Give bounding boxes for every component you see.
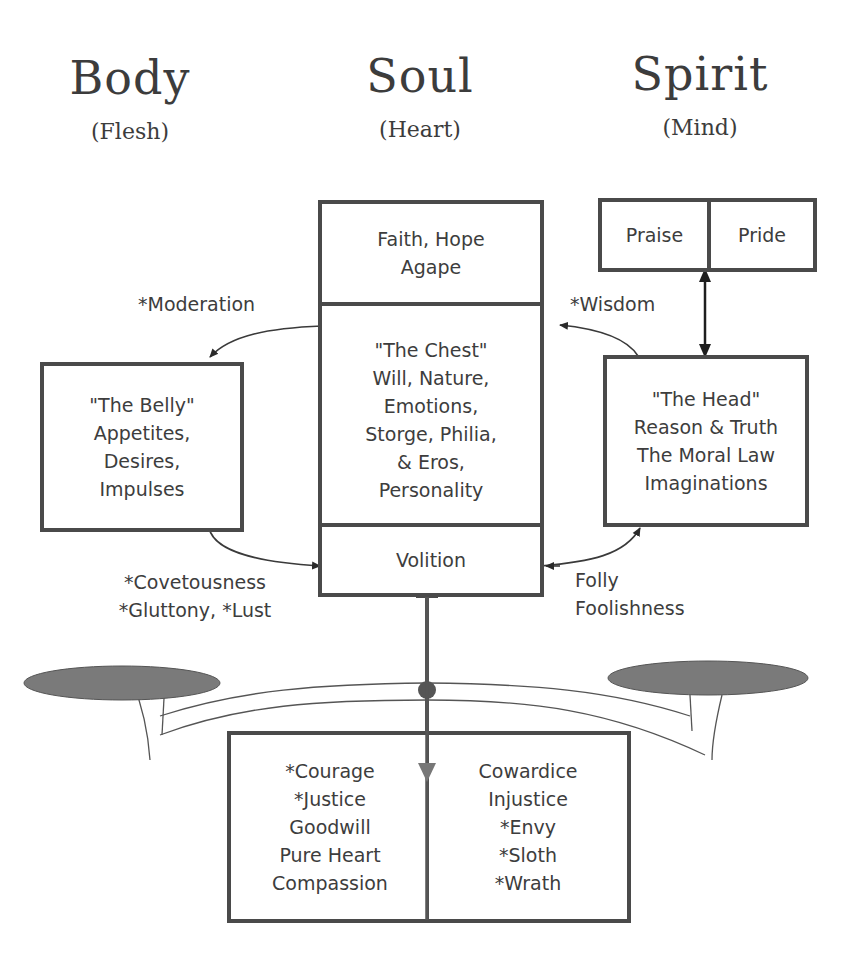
folly-line-1: Folly [575, 566, 685, 594]
scale-pan-right [608, 661, 808, 695]
head-line-2: Reason & Truth [634, 413, 778, 441]
chest-line-1: "The Chest" [374, 336, 487, 364]
folly-arrow [540, 528, 640, 566]
heading-spirit: Spirit (Mind) [610, 48, 790, 142]
vice-1: Cowardice [478, 757, 577, 785]
chest-box: "The Chest" Will, Nature, Emotions, Stor… [318, 302, 544, 538]
head-line-4: Imaginations [644, 469, 767, 497]
volition-label: Volition [396, 546, 466, 574]
chest-line-4: Storge, Philia, [365, 420, 496, 448]
heading-body-subtitle: (Flesh) [40, 118, 220, 146]
scale-beam-upper [160, 683, 690, 716]
pride-label: Pride [738, 221, 786, 249]
head-line-3: The Moral Law [637, 441, 775, 469]
volition-box: Volition [318, 523, 544, 597]
vice-4: *Sloth [499, 841, 557, 869]
covetousness-label: *Covetousness *Gluttony, *Lust [106, 568, 284, 624]
virtue-5: Compassion [272, 869, 388, 897]
belly-line-1: "The Belly" [89, 391, 194, 419]
vice-5: *Wrath [495, 869, 561, 897]
faith-hope-agape-box: Faith, Hope Agape [318, 200, 544, 306]
moderation-label: *Moderation [138, 290, 255, 318]
vice-2: Injustice [488, 785, 568, 813]
belly-box: "The Belly" Appetites, Desires, Impulses [40, 362, 244, 532]
wisdom-label: *Wisdom [570, 290, 655, 318]
folly-label: Folly Foolishness [575, 566, 685, 622]
virtue-2: *Justice [294, 785, 366, 813]
chest-line-3: Emotions, [384, 392, 478, 420]
faith-line-2: Agape [401, 253, 461, 281]
chest-line-5: & Eros, [397, 448, 465, 476]
moderation-arrow [210, 326, 322, 357]
virtue-4: Pure Heart [279, 841, 380, 869]
virtue-1: *Courage [285, 757, 375, 785]
belly-line-3: Desires, [104, 447, 181, 475]
praise-label: Praise [626, 221, 683, 249]
heading-soul: Soul (Heart) [330, 50, 510, 144]
heading-body: Body (Flesh) [40, 52, 220, 146]
covetousness-line-2: *Gluttony, *Lust [106, 596, 284, 624]
heading-spirit-title: Spirit [610, 48, 790, 100]
faith-line-1: Faith, Hope [377, 225, 484, 253]
fulcrum-pivot [418, 681, 436, 699]
wisdom-arrow [560, 325, 638, 356]
head-line-1: "The Head" [652, 385, 761, 413]
chest-line-6: Personality [379, 476, 484, 504]
head-box: "The Head" Reason & Truth The Moral Law … [603, 355, 809, 527]
heading-soul-title: Soul [330, 50, 510, 102]
folly-line-2: Foolishness [575, 594, 685, 622]
heading-soul-subtitle: (Heart) [330, 116, 510, 144]
belly-line-2: Appetites, [94, 419, 191, 447]
heading-body-title: Body [40, 52, 220, 104]
scale-pan-left [24, 666, 220, 700]
heading-spirit-subtitle: (Mind) [610, 114, 790, 142]
virtues-box: *Courage *Justice Goodwill Pure Heart Co… [227, 731, 431, 923]
covetousness-arrow [209, 528, 320, 566]
belly-line-4: Impulses [100, 475, 185, 503]
chest-line-2: Will, Nature, [373, 364, 490, 392]
vices-box: Cowardice Injustice *Envy *Sloth *Wrath [427, 731, 631, 923]
praise-box: Praise [598, 198, 711, 272]
virtue-3: Goodwill [289, 813, 370, 841]
pride-box: Pride [707, 198, 817, 272]
vice-3: *Envy [500, 813, 556, 841]
covetousness-line-1: *Covetousness [106, 568, 284, 596]
